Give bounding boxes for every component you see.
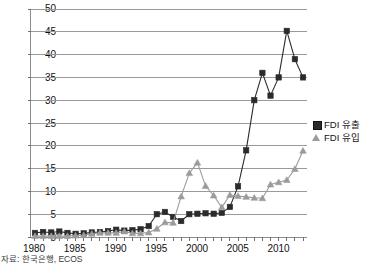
legend-label: FDI 유입 (324, 132, 360, 143)
x-axis-tick-label: 2005 (227, 243, 249, 254)
x-axis-tick-label: 2000 (186, 243, 208, 254)
chart-legend: FDI 유출FDI 유입 (312, 118, 360, 144)
legend-item-fdi-inflow[interactable]: FDI 유입 (312, 131, 360, 144)
x-axis-tick-label: 1990 (104, 243, 126, 254)
data-series-layer (31, 9, 307, 237)
series-fdi-inflow (32, 148, 307, 239)
square-marker-icon (312, 120, 321, 129)
fdi-chart-figure: 05101520253035404550 1980198519901995200… (0, 0, 367, 266)
plot-area (30, 9, 307, 238)
legend-label: FDI 유출 (324, 119, 360, 130)
source-caption: 자료: 한국은행, ECOS (1, 252, 83, 264)
x-axis-tick-label: 1995 (145, 243, 167, 254)
legend-item-fdi-outflow[interactable]: FDI 유출 (312, 118, 360, 131)
triangle-marker-icon (312, 133, 321, 142)
x-axis-tick-label: 2010 (267, 243, 289, 254)
series-fdi-outflow (32, 28, 305, 236)
